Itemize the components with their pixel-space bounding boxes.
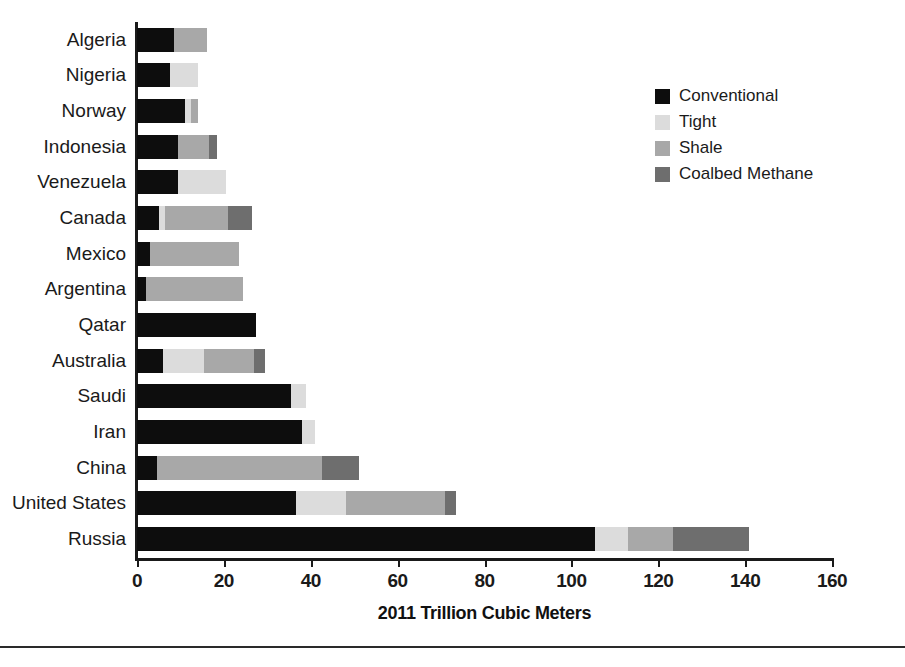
category-label-qatar: Qatar [78, 314, 126, 336]
x-tick-label-20: 20 [214, 570, 234, 592]
bar-segment-tight [178, 170, 226, 194]
bar-segment-coalbed-methane [673, 527, 749, 551]
stacked-bar-nigeria [137, 63, 198, 87]
bar-segment-shale [165, 206, 228, 230]
legend-label: Tight [679, 112, 716, 132]
bar-segment-conventional [137, 170, 178, 194]
bar-segment-conventional [137, 527, 595, 551]
category-label-argentina: Argentina [45, 278, 126, 300]
bar-segment-conventional [137, 277, 146, 301]
bar-segment-conventional [137, 99, 185, 123]
legend-item: Coalbed Methane [655, 164, 813, 184]
bar-segment-shale [191, 99, 198, 123]
bar-segment-conventional [137, 349, 163, 373]
bar-row: United States [137, 486, 832, 522]
bar-segment-tight [595, 527, 628, 551]
legend-swatch-shale [655, 141, 670, 156]
bar-segment-conventional [137, 491, 296, 515]
category-label-russia: Russia [68, 528, 126, 550]
bar-segment-shale [157, 456, 322, 480]
stacked-bar-russia [137, 527, 749, 551]
bar-row: Mexico [137, 236, 832, 272]
stacked-bar-iran [137, 420, 315, 444]
x-tick-label-100: 100 [556, 570, 586, 592]
bar-segment-coalbed-methane [322, 456, 359, 480]
bar-segment-coalbed-methane [445, 491, 456, 515]
bar-row: Russia [137, 521, 832, 557]
bar-row: China [137, 450, 832, 486]
category-label-united-states: United States [12, 492, 126, 514]
x-tick-100 [571, 558, 573, 567]
bar-segment-shale [178, 135, 208, 159]
bar-segment-coalbed-methane [254, 349, 265, 373]
x-tick-0 [137, 558, 139, 567]
stacked-bar-canada [137, 206, 252, 230]
bar-segment-conventional [137, 28, 174, 52]
x-tick-label-60: 60 [388, 570, 408, 592]
category-label-mexico: Mexico [66, 243, 126, 265]
legend-item: Shale [655, 138, 813, 158]
stacked-bar-saudi [137, 384, 306, 408]
stacked-bar-indonesia [137, 135, 217, 159]
x-tick-label-160: 160 [817, 570, 847, 592]
bar-row: Saudi [137, 379, 832, 415]
bar-segment-shale [204, 349, 254, 373]
x-axis-title: 2011 Trillion Cubic Meters [137, 603, 832, 624]
bar-row: Qatar [137, 307, 832, 343]
category-label-algeria: Algeria [67, 29, 126, 51]
bar-segment-tight [163, 349, 204, 373]
bar-segment-coalbed-methane [209, 135, 218, 159]
x-tick-120 [658, 558, 660, 567]
legend-item: Tight [655, 112, 813, 132]
bar-segment-conventional [137, 384, 291, 408]
legend-label: Conventional [679, 86, 778, 106]
x-tick-140 [745, 558, 747, 567]
legend-swatch-conventional [655, 89, 670, 104]
bar-segment-conventional [137, 206, 159, 230]
bar-segment-shale [150, 242, 239, 266]
category-label-australia: Australia [52, 350, 126, 372]
bar-segment-shale [346, 491, 446, 515]
bar-row: Iran [137, 414, 832, 450]
bar-segment-conventional [137, 456, 157, 480]
x-tick-60 [398, 558, 400, 567]
category-label-canada: Canada [59, 207, 126, 229]
legend-item: Conventional [655, 86, 813, 106]
bar-segment-tight [170, 63, 198, 87]
bar-segment-tight [291, 384, 306, 408]
stacked-bar-united-states [137, 491, 456, 515]
category-label-china: China [76, 457, 126, 479]
x-tick-160 [832, 558, 834, 567]
chart-legend: ConventionalTightShaleCoalbed Methane [655, 86, 813, 190]
bar-segment-conventional [137, 63, 170, 87]
chart-container: AlgeriaNigeriaNorwayIndonesiaVenezuelaCa… [0, 0, 905, 667]
category-label-nigeria: Nigeria [66, 64, 126, 86]
bar-segment-conventional [137, 313, 256, 337]
bar-segment-shale [146, 277, 244, 301]
stacked-bar-qatar [137, 313, 256, 337]
bar-row: Argentina [137, 272, 832, 308]
x-tick-label-40: 40 [301, 570, 321, 592]
bar-row: Australia [137, 343, 832, 379]
x-tick-label-140: 140 [730, 570, 760, 592]
legend-swatch-tight [655, 115, 670, 130]
x-tick-label-80: 80 [474, 570, 494, 592]
bar-segment-coalbed-methane [228, 206, 252, 230]
bar-segment-shale [628, 527, 674, 551]
bar-segment-tight [302, 420, 315, 444]
x-tick-20 [224, 558, 226, 567]
category-label-indonesia: Indonesia [44, 136, 126, 158]
category-label-norway: Norway [62, 100, 126, 122]
bar-segment-conventional [137, 420, 302, 444]
stacked-bar-venezuela [137, 170, 226, 194]
category-label-iran: Iran [93, 421, 126, 443]
legend-swatch-coalbed-methane [655, 167, 670, 182]
stacked-bar-mexico [137, 242, 239, 266]
stacked-bar-argentina [137, 277, 243, 301]
stacked-bar-australia [137, 349, 265, 373]
bar-segment-tight [296, 491, 346, 515]
legend-label: Shale [679, 138, 722, 158]
stacked-bar-norway [137, 99, 198, 123]
bar-segment-conventional [137, 135, 178, 159]
x-tick-40 [311, 558, 313, 567]
